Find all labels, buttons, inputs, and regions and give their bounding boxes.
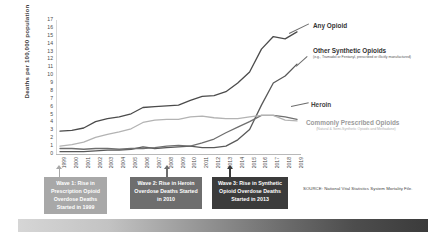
series-name: Commonly Prescribed Opioids bbox=[306, 119, 406, 126]
x-tick-label: 1999 bbox=[62, 157, 67, 168]
series-name: Heroin bbox=[311, 101, 331, 108]
x-tick-label: 2011 bbox=[204, 157, 209, 168]
plot-area: 01234567891011121314151617 1999200020012… bbox=[56, 20, 301, 154]
series-line bbox=[60, 115, 297, 146]
series-label-other-synthetic: Other Synthetic Opioids (e.g., Tramadol … bbox=[313, 47, 405, 59]
y-tick-label: 3 bbox=[50, 128, 53, 133]
x-tick-label: 2003 bbox=[109, 157, 114, 168]
wave-1-callout: Wave 1: Rise in Prescription Opioid Over… bbox=[44, 177, 107, 214]
y-axis-title: Deaths per 100,000 population bbox=[23, 0, 30, 107]
y-tick-label: 7 bbox=[50, 96, 53, 101]
wave-1-arrow-head bbox=[56, 165, 62, 169]
x-tick-label: 2004 bbox=[121, 157, 126, 168]
y-tick-label: 14 bbox=[47, 41, 53, 46]
x-tick-label: 2007 bbox=[157, 157, 162, 168]
x-tick-label: 2005 bbox=[133, 157, 138, 168]
x-tick-label: 2009 bbox=[181, 157, 186, 168]
wave-1-arrow-stem bbox=[59, 168, 61, 177]
x-tick-label: 2019 bbox=[299, 157, 304, 168]
series-sublabel: (e.g., Tramadol or Fentanyl, prescribed … bbox=[313, 55, 405, 59]
y-tick-label: 0 bbox=[50, 151, 53, 156]
x-tick-label: 2001 bbox=[86, 157, 91, 168]
x-tick-label: 2014 bbox=[240, 157, 245, 168]
source-note: SOURCE: National Vital Statistics System… bbox=[303, 186, 412, 191]
y-tick-label: 12 bbox=[47, 57, 53, 62]
wave-3-arrow-stem bbox=[229, 168, 231, 177]
x-tick-label: 2006 bbox=[145, 157, 150, 168]
decorative-gradient-bar bbox=[18, 219, 428, 232]
series-line bbox=[60, 115, 297, 149]
y-tick-label: 11 bbox=[48, 65, 53, 70]
y-tick-label: 1 bbox=[50, 144, 53, 149]
x-tick-label: 2010 bbox=[192, 157, 197, 168]
series-line bbox=[60, 32, 297, 131]
chart-figure: Deaths per 100,000 population 0123456789… bbox=[0, 0, 443, 241]
y-tick-label: 9 bbox=[50, 81, 53, 86]
wave-3-callout: Wave 3: Rise in Synthetic Opioid Overdos… bbox=[212, 177, 288, 209]
series-label-any-opioid: Any Opioid bbox=[313, 22, 347, 29]
x-tick-label: 2012 bbox=[216, 157, 221, 168]
y-tick-label: 16 bbox=[47, 25, 53, 30]
y-tick-label: 6 bbox=[50, 104, 53, 109]
y-tick-label: 5 bbox=[50, 112, 53, 117]
x-tick-label: 2015 bbox=[252, 157, 257, 168]
wave-2-callout: Wave 2: Rise in Heroin Overdose Deaths S… bbox=[130, 177, 202, 209]
x-tick-label: 2017 bbox=[275, 157, 280, 168]
series-label-commonly-prescribed: Commonly Prescribed Opioids (Natural & S… bbox=[306, 119, 406, 131]
series-lines bbox=[56, 20, 301, 154]
wave-2-arrow-head bbox=[164, 165, 170, 169]
x-tick-label: 2002 bbox=[98, 157, 103, 168]
y-tick-label: 8 bbox=[50, 88, 53, 93]
series-name: Any Opioid bbox=[313, 22, 347, 29]
y-tick-label: 2 bbox=[50, 136, 53, 141]
series-sublabel: (Natural & Semi-Synthetic Opioids and Me… bbox=[306, 127, 406, 131]
series-line bbox=[60, 64, 297, 151]
wave-3-arrow-head bbox=[227, 165, 233, 169]
series-name: Other Synthetic Opioids bbox=[313, 47, 405, 54]
y-tick-label: 15 bbox=[47, 33, 53, 38]
x-tick-label: 2000 bbox=[74, 157, 79, 168]
y-tick-label: 17 bbox=[47, 17, 53, 22]
y-tick-label: 4 bbox=[50, 120, 53, 125]
wave-2-arrow-stem bbox=[166, 168, 168, 177]
series-label-heroin: Heroin bbox=[311, 101, 331, 108]
y-tick-label: 13 bbox=[47, 49, 53, 54]
x-tick-label: 2016 bbox=[263, 157, 268, 168]
x-tick-label: 2018 bbox=[287, 157, 292, 168]
y-tick-label: 10 bbox=[47, 73, 53, 78]
